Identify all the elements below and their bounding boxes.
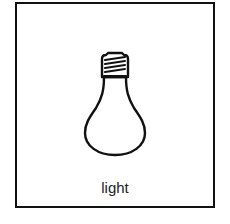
symbol-label: light [0,179,230,196]
